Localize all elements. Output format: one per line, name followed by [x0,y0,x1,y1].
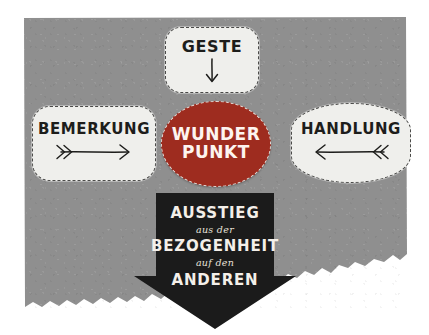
banner-down-arrow[interactable]: AUSSTIEG aus der BEZOGENHEIT auf den AND… [131,190,299,332]
node-geste[interactable]: GESTE [165,27,259,93]
arrow-left-icon [309,141,393,167]
arrow-down-icon [201,58,223,88]
node-wunderpunkt-label-line2: PUNKT [182,144,250,162]
node-geste-label: GESTE [182,37,242,56]
node-handlung[interactable]: HANDLUNG [291,103,411,183]
node-wunderpunkt[interactable]: WUNDER PUNKT [161,101,271,187]
node-handlung-label: HANDLUNG [301,120,401,138]
diagram-canvas: GESTE BEMERKUNG HANDLUNG [0,0,429,335]
node-bemerkung-label: BEMERKUNG [38,120,150,138]
node-bemerkung[interactable]: BEMERKUNG [32,106,156,181]
arrow-right-icon [52,141,136,167]
